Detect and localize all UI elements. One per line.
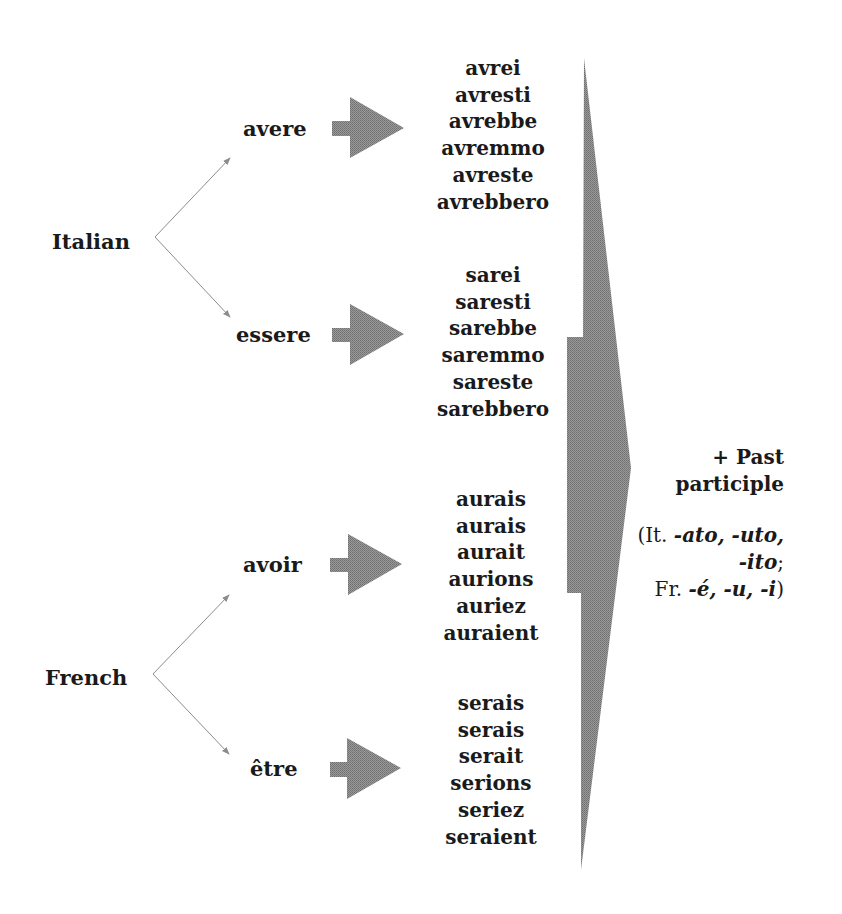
verb-label-avere: avere: [243, 116, 307, 141]
language-label-italian: Italian: [52, 229, 130, 254]
note-italian-endings: (It. -ato, -uto,: [637, 522, 784, 549]
conjugation-list-essere: sarei saresti sarebbe saremmo sareste sa…: [408, 262, 578, 422]
note-french-endings: Fr. -é, -u, -i): [637, 576, 784, 603]
conjugation-form: serais: [406, 717, 576, 744]
conjugation-form: sarebbero: [408, 396, 578, 423]
verb-label-essere: essere: [236, 322, 311, 347]
conjugation-form: seriez: [406, 797, 576, 824]
conjugation-form: serions: [406, 770, 576, 797]
connector-arrow-icon: [155, 237, 230, 317]
note-line-1: + Past: [637, 444, 784, 471]
conditional-perfect-diagram: Italian French avere essere avoir être a…: [0, 0, 842, 914]
conjugation-form: sarebbe: [408, 315, 578, 342]
connector-arrow-icon: [155, 158, 230, 237]
conjugation-form: sareste: [408, 369, 578, 396]
note-line-2: participle: [637, 471, 784, 498]
conjugation-list-etre: serais serais serait serions seriez sera…: [406, 690, 576, 850]
conjugation-form: saremmo: [408, 342, 578, 369]
conjugation-form: serait: [406, 743, 576, 770]
conjugation-form: auraient: [406, 620, 576, 647]
conjugation-form: avrebbe: [408, 108, 578, 135]
conjugation-form: aurais: [406, 486, 576, 513]
conjugation-form: avresti: [408, 82, 578, 109]
conjugation-form: aurais: [406, 513, 576, 540]
block-arrow-icon-avere: [332, 97, 404, 158]
conjugation-form: serais: [406, 690, 576, 717]
conjugation-list-avere: avrei avresti avrebbe avremmo avreste av…: [408, 55, 578, 215]
connector-arrow-icon: [153, 595, 229, 674]
conjugation-form: aurions: [406, 566, 576, 593]
french-branch-connectors: [153, 595, 229, 754]
block-arrow-icon-essere: [332, 304, 404, 365]
italian-branch-connectors: [155, 158, 230, 317]
language-label-french: French: [45, 665, 127, 690]
conjugation-form: sarei: [408, 262, 578, 289]
conjugation-form: auriez: [406, 593, 576, 620]
conjugation-form: saresti: [408, 289, 578, 316]
conjugation-form: avreste: [408, 162, 578, 189]
conjugation-form: avrebbero: [408, 189, 578, 216]
conjugation-list-avoir: aurais aurais aurait aurions auriez aura…: [406, 486, 576, 646]
verb-label-avoir: avoir: [243, 552, 302, 577]
conjugation-form: seraient: [406, 824, 576, 851]
block-arrow-icon-avoir: [330, 534, 402, 595]
conjugation-form: aurait: [406, 539, 576, 566]
conjugation-form: avrei: [408, 55, 578, 82]
verb-label-etre: être: [250, 756, 298, 781]
connector-arrow-icon: [153, 674, 229, 754]
past-participle-note: + Past participle (It. -ato, -uto, -ito;…: [637, 444, 784, 603]
conjugation-form: avremmo: [408, 135, 578, 162]
note-italian-endings-cont: -ito;: [637, 549, 784, 576]
block-arrow-icon-etre: [330, 738, 401, 799]
